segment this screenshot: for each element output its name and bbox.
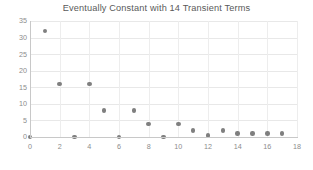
x-axis-line — [30, 137, 298, 138]
y-tick-label: 25 — [3, 51, 27, 58]
gridline-horizontal — [30, 54, 297, 55]
y-tick-label: 20 — [3, 67, 27, 74]
data-point — [87, 82, 91, 86]
x-tick-label: 14 — [228, 143, 248, 150]
gridline-vertical — [208, 21, 209, 137]
gridline-vertical — [149, 21, 150, 137]
y-tick-label: 30 — [3, 34, 27, 41]
gridline-horizontal — [30, 104, 297, 105]
x-tick-label: 2 — [50, 143, 70, 150]
x-tick-label: 0 — [20, 143, 40, 150]
y-tick-label: 10 — [3, 100, 27, 107]
data-point — [191, 128, 195, 132]
gridline-vertical — [89, 21, 90, 137]
data-point — [146, 122, 150, 126]
data-point — [43, 29, 47, 33]
data-point — [57, 82, 61, 86]
gridline-horizontal — [30, 38, 297, 39]
data-point — [280, 131, 284, 135]
gridline-vertical — [297, 21, 298, 137]
data-point — [132, 108, 136, 112]
x-tick-label: 8 — [139, 143, 159, 150]
y-axis-line — [30, 21, 31, 138]
data-point — [235, 131, 239, 135]
y-tick-label: 35 — [3, 17, 27, 24]
gridline-vertical — [119, 21, 120, 137]
gridline-horizontal — [30, 120, 297, 121]
y-tick-label: 0 — [3, 133, 27, 140]
x-axis-tick-labels: 024681012141618 — [30, 143, 298, 155]
scatter-chart: Eventually Constant with 14 Transient Te… — [0, 0, 313, 170]
x-tick-label: 4 — [79, 143, 99, 150]
x-tick-label: 6 — [109, 143, 129, 150]
gridline-vertical — [267, 21, 268, 137]
data-point — [250, 131, 254, 135]
gridline-vertical — [60, 21, 61, 137]
plot-area — [30, 21, 297, 137]
data-point — [102, 108, 106, 112]
x-tick-label: 16 — [257, 143, 277, 150]
gridline-vertical — [178, 21, 179, 137]
data-point — [176, 122, 180, 126]
gridline-horizontal — [30, 71, 297, 72]
y-tick-label: 5 — [3, 117, 27, 124]
data-point — [221, 128, 225, 132]
gridline-vertical — [238, 21, 239, 137]
x-tick-label: 10 — [168, 143, 188, 150]
data-point — [265, 131, 269, 135]
y-tick-label: 15 — [3, 84, 27, 91]
gridline-horizontal — [30, 21, 297, 22]
x-tick-label: 12 — [198, 143, 218, 150]
x-tick-label: 18 — [287, 143, 307, 150]
gridline-horizontal — [30, 87, 297, 88]
chart-title: Eventually Constant with 14 Transient Te… — [0, 3, 313, 13]
